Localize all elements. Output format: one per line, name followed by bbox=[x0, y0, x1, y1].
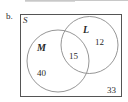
set-m-only-value: 40 bbox=[37, 68, 47, 78]
set-m-label: M bbox=[36, 42, 47, 53]
venn-diagram: b. S M L 12 15 40 33 bbox=[0, 0, 128, 102]
part-label: b. bbox=[6, 11, 13, 21]
set-l-only-value: 12 bbox=[95, 37, 104, 47]
set-l-circle bbox=[61, 17, 118, 74]
outside-value: 33 bbox=[107, 85, 117, 95]
set-l-label: L bbox=[82, 24, 89, 35]
universal-set-label: S bbox=[23, 15, 28, 25]
set-m-circle bbox=[27, 30, 89, 92]
intersection-value: 15 bbox=[69, 51, 79, 61]
